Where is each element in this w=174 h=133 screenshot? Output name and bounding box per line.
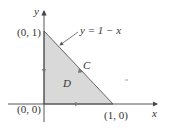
curve-equation-label: y = 1 − x (79, 24, 121, 36)
y-axis-label: y (33, 5, 39, 17)
x-axis-label: x (151, 107, 157, 119)
curve-leader-arrow (60, 32, 78, 45)
point-label-right: (1, 0) (104, 109, 128, 122)
point-label-origin: (0, 0) (17, 103, 41, 116)
boundary-label-c: C (83, 59, 91, 71)
diagram-canvas: y x (0, 1) (0, 0) (1, 0) y = 1 − x C D (0, 0, 174, 133)
point-label-top: (0, 1) (17, 26, 41, 39)
region-d (44, 31, 113, 104)
region-label-d: D (62, 77, 71, 89)
